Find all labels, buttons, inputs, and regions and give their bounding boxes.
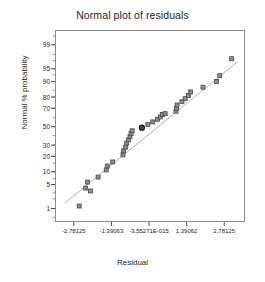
y-axis-tick-label: 70 bbox=[28, 105, 50, 112]
y-axis-tick-label: 30 bbox=[28, 142, 50, 149]
x-axis-tick-label: -2.78125 bbox=[62, 228, 86, 234]
x-axis-tick-label: -3.55271E-015 bbox=[129, 228, 169, 234]
y-axis-tick-label: 80 bbox=[28, 94, 50, 101]
data-point-marker bbox=[215, 80, 219, 84]
data-point-marker bbox=[175, 103, 179, 107]
data-point-marker bbox=[218, 74, 222, 78]
x-axis-tick-label: -1.39063 bbox=[100, 228, 124, 234]
y-axis-tick-label: 90 bbox=[28, 78, 50, 85]
data-point-marker bbox=[230, 57, 234, 61]
y-axis-tick-label: 95 bbox=[28, 65, 50, 72]
chart-title: Normal plot of residuals bbox=[0, 9, 265, 21]
data-point-marker bbox=[130, 129, 134, 133]
y-axis-tick-label: 1 bbox=[28, 205, 50, 212]
data-point-marker bbox=[105, 164, 109, 168]
data-point-marker bbox=[96, 175, 100, 179]
x-axis-title: Residual bbox=[0, 258, 265, 267]
plot-area bbox=[55, 30, 245, 222]
y-axis-tick-label: 20 bbox=[28, 153, 50, 160]
data-point-marker bbox=[201, 85, 205, 89]
data-point-marker bbox=[84, 186, 88, 190]
data-point-marker bbox=[104, 168, 108, 172]
normal-probability-plot: Normal plot of residuals 999590807050302… bbox=[0, 0, 265, 282]
data-point-marker bbox=[146, 123, 150, 127]
data-point-marker bbox=[77, 204, 81, 208]
y-axis-tick-label: 50 bbox=[28, 123, 50, 130]
data-point-marker bbox=[189, 90, 193, 94]
data-point-marker bbox=[151, 120, 155, 124]
data-point-marker bbox=[121, 153, 125, 157]
normal-reference-line bbox=[65, 62, 238, 204]
x-axis-tick-label: 2.78125 bbox=[213, 228, 235, 234]
y-axis-title: Normal % probability bbox=[20, 33, 29, 153]
x-axis-tick-label: 1.39062 bbox=[176, 228, 198, 234]
y-axis-tick-label: 10 bbox=[28, 168, 50, 175]
y-axis-tick-label: 99 bbox=[28, 41, 50, 48]
data-point-marker bbox=[124, 145, 128, 149]
data-point-marker bbox=[111, 160, 115, 164]
y-axis-tick-label: 5 bbox=[28, 181, 50, 188]
data-point-marker bbox=[86, 180, 90, 184]
x-axis-tick-labels: -2.78125-1.39063-3.55271E-0151.390622.78… bbox=[0, 228, 265, 240]
data-point-marker bbox=[163, 112, 167, 116]
data-point-marker bbox=[89, 189, 93, 193]
highlighted-data-point bbox=[139, 125, 144, 130]
y-axis-tick-labels: 99959080705030201051 bbox=[26, 30, 50, 222]
plot-canvas bbox=[56, 31, 244, 221]
